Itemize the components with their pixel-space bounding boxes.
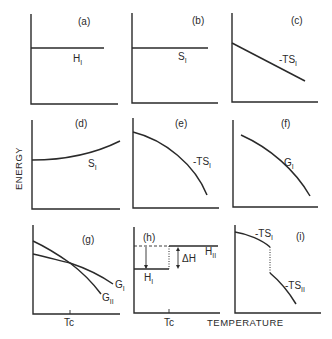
panel-i-label: (i) [296,231,305,242]
panel-i-axes [235,225,321,313]
label-sub: I [123,285,125,292]
label-sub: II [110,298,114,305]
panel-b-label: (b) [192,15,204,26]
curve-g2 [33,241,101,294]
panel-i: (i) -TSI -TSII [235,225,321,313]
panel-f-axes [233,120,318,207]
label-name: -TS [255,228,271,239]
x-axis-label: TEMPERATURE [207,317,284,328]
panel-c-label: (c) [291,15,303,26]
label-h1: HI [144,272,153,285]
label-sub: I [292,163,294,170]
panel-a-label: (a) [78,16,90,27]
panel-h: (h) ΔH HI HII Tc [134,227,220,328]
panel-g: (g) GI GII Tc [33,225,125,328]
panel-d-label: (d) [75,118,87,129]
label-s1: SI [88,158,97,171]
label-minus-ts1: -TSI [193,156,211,169]
tc-label: Tc [64,317,74,328]
tc-label: Tc [164,317,174,328]
label-name: H [144,272,151,283]
label-name: H [205,246,212,257]
panel-f-label: (f) [281,118,290,129]
label-sub: II [212,252,216,259]
delta-h-label: ΔH [182,253,196,264]
curve-s1 [32,141,120,160]
label-name: -TS [285,280,301,291]
panel-c: (c) -TSI [232,13,318,102]
panel-d-axes [32,120,120,209]
label-sub: I [185,57,187,64]
panel-e-label: (e) [175,118,187,129]
label-s1: SI [178,51,187,64]
panel-h-label: (h) [143,232,155,243]
arrow-head-icon [176,247,180,251]
panel-c-axes [232,13,318,102]
arrow-head-icon [176,265,180,269]
label-sub: I [271,234,273,241]
label-name: H [73,53,80,64]
label-minus-ts1: -TSI [279,54,297,67]
label-sub: I [209,162,211,169]
label-g1: GI [115,279,125,292]
label-h1: HI [73,53,82,66]
label-name: -TS [279,54,295,65]
label-sub: I [295,60,297,67]
panel-e: (e) -TSI [133,118,219,208]
panel-a: (a) HI [31,14,118,104]
label-h2: HII [205,246,216,259]
y-axis-label: ENERGY [13,147,24,190]
panel-b-axes [132,13,218,103]
curve-g1 [33,254,113,284]
label-sub: I [151,278,153,285]
panel-g-label: (g) [82,234,94,245]
panel-d: (d) SI [32,118,120,209]
label-g2: GII [102,292,114,305]
label-sub: II [301,286,305,293]
panel-f: (f) GI [233,118,318,207]
label-sub: I [80,59,82,66]
label-sub: I [95,164,97,171]
curve-g1 [241,135,310,196]
label-name: -TS [193,156,209,167]
panel-b: (b) SI [132,13,218,103]
energy-temperature-diagram: (a) HI (b) SI (c) -TSI (d) SI (e) -TSI (… [0,0,332,339]
